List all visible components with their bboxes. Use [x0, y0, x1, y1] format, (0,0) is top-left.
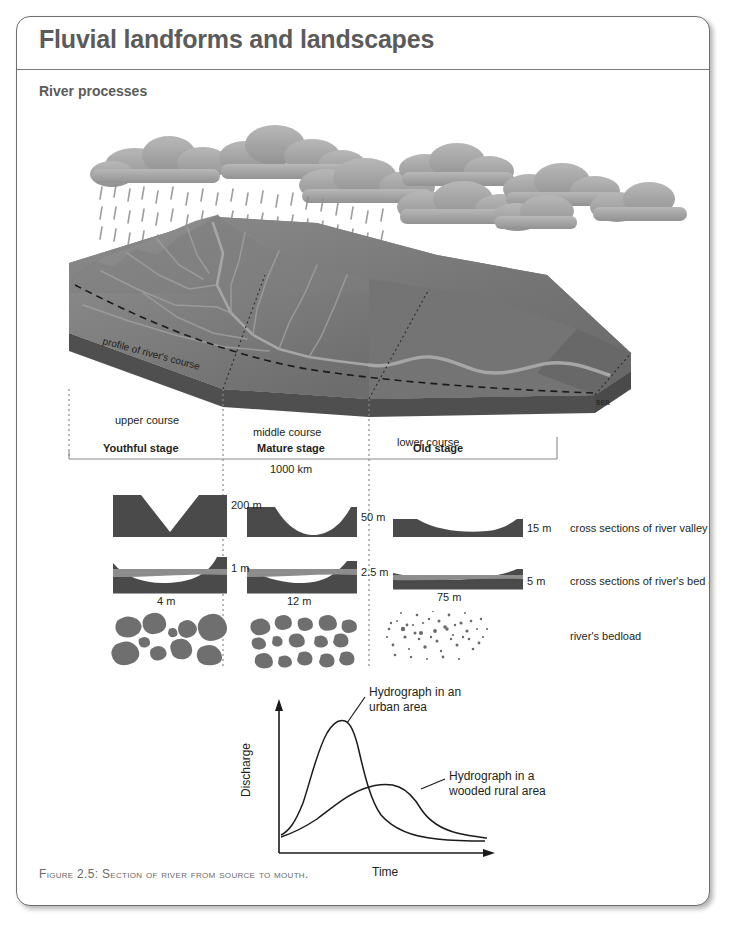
sea-label: sea [596, 397, 610, 407]
bed-banks-row-label: cross sections of river's bed and banks [570, 575, 710, 587]
chart-y-axis-label: Discharge [239, 743, 253, 797]
bedload-lower [386, 610, 488, 660]
series-label-rural-line1: Hydrograph in a [449, 769, 534, 783]
series-label-urban-line1: Hydrograph in an [369, 685, 461, 699]
chart-x-axis-label: Time [372, 865, 398, 879]
bed-width-middle: 12 m [287, 595, 311, 607]
cloud-group [90, 125, 687, 231]
bed-depth-middle: 2.5 m [361, 566, 389, 578]
bed-depth-lower: 5 m [527, 575, 545, 587]
valley-depth-lower: 15 m [527, 522, 551, 534]
bedload-row-label: river's bedload [570, 630, 641, 642]
bed-cross-sections [113, 557, 523, 593]
scale-label: 1000 km [270, 463, 312, 475]
stage-label-mature: Mature stage [257, 442, 325, 454]
figure-page: Fluvial landforms and landscapes River p… [16, 16, 710, 906]
valley-depth-upper: 200 m [231, 499, 262, 511]
figure-artwork: profile of river's course sea upper cour… [17, 17, 710, 906]
valley-cross-sections [113, 495, 523, 537]
land-block [69, 215, 631, 417]
figure-caption: Figure 2.5: Section of river from source… [39, 867, 309, 881]
bedload-upper [111, 613, 227, 666]
stage-label-old: Old stage [413, 442, 463, 454]
valley-row-label: cross sections of river valley [570, 522, 708, 534]
series-label-rural-line2: wooded rural area [449, 784, 546, 798]
valley-depth-middle: 50 m [361, 511, 385, 523]
bed-depth-upper: 1 m [231, 562, 249, 574]
bed-width-upper: 4 m [157, 595, 175, 607]
bed-width-lower: 75 m [437, 591, 461, 603]
series-label-urban-line2: urban area [369, 700, 427, 714]
course-label-middle: middle course [253, 426, 321, 438]
bedload-middle [250, 615, 357, 669]
stage-label-youthful: Youthful stage [103, 442, 179, 454]
course-label-upper: upper course [115, 414, 179, 426]
